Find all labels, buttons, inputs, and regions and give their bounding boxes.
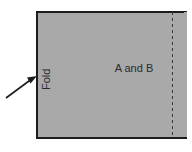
fold-label: Fold (40, 69, 52, 90)
fold-arrow (6, 76, 37, 98)
right-edge-soft-mask (184, 12, 187, 137)
diagram-canvas: Fold A and B (0, 0, 192, 152)
folded-sheet-panel (37, 12, 186, 138)
region-label: A and B (115, 62, 154, 74)
fold-arrow-shaft (6, 78, 33, 98)
folded-sheet-diagram: Fold A and B (0, 0, 192, 152)
